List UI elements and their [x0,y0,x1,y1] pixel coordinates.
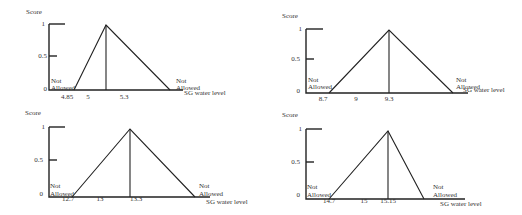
x-axis-label: SG water level [440,200,482,208]
y-tick-label-05: 0.5 [291,158,300,166]
y-axis-label: Score [282,12,298,20]
not-allowed-left-1: Not [50,182,61,190]
y-axis-label: Score [25,109,41,117]
not-allowed-right-2: Allowed [433,191,458,199]
y-axis-label: Score [26,8,42,16]
axes [49,24,183,90]
x-axis-label: SG water level [184,89,226,97]
x-tick-label: 5.3 [120,93,129,101]
not-allowed-left-2: Allowed [51,84,76,92]
y-tick-label-0: 0 [297,191,301,199]
not-allowed-left-2: Allowed [308,83,333,91]
not-allowed-left-1: Not [307,183,318,191]
y-tick-label-05: 0.5 [38,52,47,60]
x-tick-label: 13 [97,195,105,203]
membership-triangle [72,129,195,197]
x-tick-label: 15 [361,197,369,205]
x-tick-label: 15.15 [380,197,396,205]
y-tick-label-0: 0 [297,87,301,95]
x-tick-label: 13.3 [130,195,143,203]
x-tick-label: 14.7 [323,197,336,205]
y-axis-label: Score [282,111,298,119]
y-tick-label-1: 1 [299,125,303,133]
not-allowed-right-1: Not [199,182,210,190]
x-tick-label: 9.3 [385,95,394,103]
chart-bottom-right: Score 1 0.5 0 Not Allowed Not Allowed SG… [282,111,482,208]
membership-triangle [74,25,170,90]
y-tick-label-05: 0.5 [34,156,43,164]
x-tick-label: 12.7 [62,195,75,203]
membership-charts: Score 1 0.5 0 Not Allowed Not Allowed SG… [0,0,522,215]
x-tick-label: 9 [354,95,358,103]
chart-top-right: Score 1 0.5 0 Not Allowed Not Allowed SG… [282,12,505,103]
y-tick-label-0: 0 [44,85,48,93]
y-tick-label-0: 0 [40,190,44,198]
membership-triangle [329,30,453,93]
membership-triangle [329,131,424,199]
x-axis-label: SG water level [206,198,248,206]
chart-top-left: Score 1 0.5 0 Not Allowed Not Allowed SG… [26,8,226,101]
x-axis-label: SG water level [463,86,505,94]
chart-bottom-left: Score 1 0.5 0 Not Allowed Not Allowed SG… [25,109,248,206]
y-tick-label-1: 1 [42,123,46,131]
y-tick-label-1: 1 [299,25,303,33]
y-tick-label-1: 1 [42,20,46,28]
y-tick-label-05: 0.5 [291,55,300,63]
not-allowed-right-2: Allowed [199,190,224,198]
x-tick-label: 4.85 [61,93,74,101]
x-tick-label: 8.7 [319,95,328,103]
not-allowed-right-1: Not [433,183,444,191]
x-tick-label: 5 [86,93,90,101]
